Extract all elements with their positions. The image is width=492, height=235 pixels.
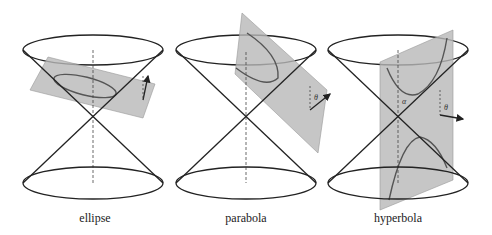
cutting-plane	[30, 57, 155, 118]
ellipse-panel	[23, 35, 163, 199]
angle-label-theta: θ	[444, 103, 448, 112]
caption-parabola: parabola	[225, 211, 266, 226]
caption-hyperbola: hyperbola	[374, 211, 422, 226]
caption-ellipse: ellipse	[79, 211, 110, 226]
hyperbola-panel: α θ	[328, 30, 468, 210]
parabola-panel: θ	[176, 13, 330, 199]
conic-sections-diagram: θ α θ	[0, 0, 492, 235]
cutting-plane	[380, 30, 453, 210]
angle-label-theta: θ	[314, 93, 318, 102]
